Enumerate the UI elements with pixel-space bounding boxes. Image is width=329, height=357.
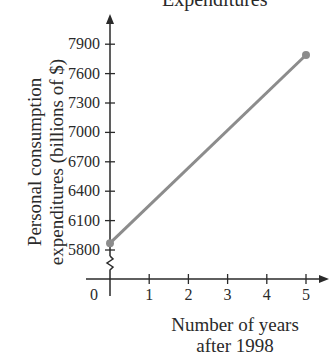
y-tick-label: 7000 — [68, 123, 100, 141]
series-line — [110, 55, 306, 243]
y-tick-label: 6700 — [68, 153, 100, 171]
data-point — [106, 239, 114, 247]
x-axis-label: Number of years after 1998 — [150, 314, 320, 356]
x-axis-label-line2: after 1998 — [150, 335, 320, 356]
y-tick-label: 6100 — [68, 212, 100, 230]
y-tick-label: 7300 — [68, 94, 100, 112]
x-tick-label: 1 — [145, 286, 153, 304]
x-tick-label: 5 — [302, 286, 310, 304]
y-axis-label-line1: Personal consumption — [24, 32, 46, 292]
y-axis-arrow-icon — [106, 14, 114, 24]
x-tick-label: 2 — [184, 286, 192, 304]
x-tick-label: 4 — [263, 286, 271, 304]
x-axis-arrow-icon — [319, 275, 329, 283]
y-tick-label: 7900 — [68, 35, 100, 53]
data-series — [106, 51, 310, 247]
y-axis-label-line2: expenditures (billions of $) — [46, 32, 68, 292]
y-axis-label: Personal consumption expenditures (billi… — [24, 32, 68, 292]
y-tick-label: 7600 — [68, 65, 100, 83]
y-tick-label: 5800 — [68, 241, 100, 259]
x-axis-label-line1: Number of years — [150, 314, 320, 335]
x-tick-label: 3 — [224, 286, 232, 304]
data-point — [302, 51, 310, 59]
axis-break-icon — [107, 256, 113, 296]
y-tick-label: 6400 — [68, 182, 100, 200]
x-tick-label: 0 — [90, 286, 98, 304]
